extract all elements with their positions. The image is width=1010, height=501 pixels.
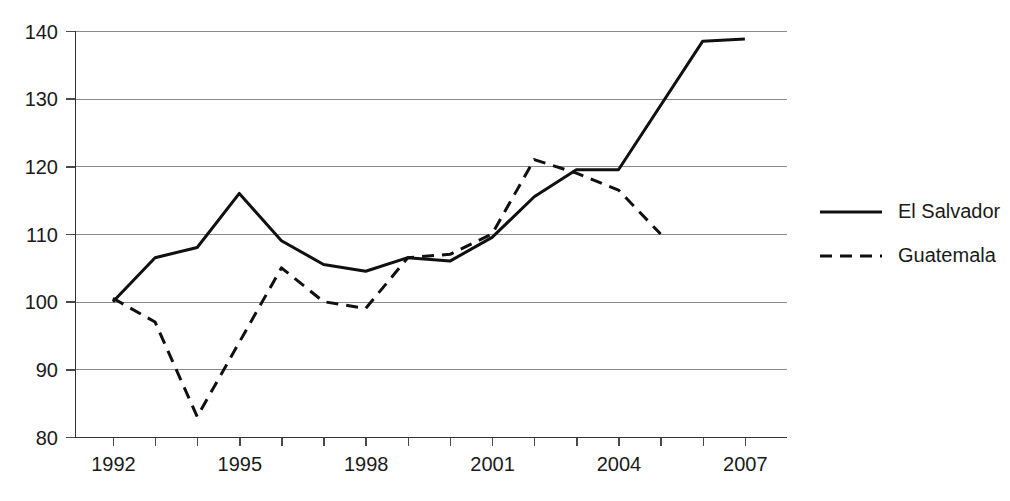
legend-label-guatemala: Guatemala <box>898 244 997 266</box>
series-line-el-salvador <box>113 39 745 302</box>
x-axis-tick-labels-group: 199219951998200120042007 <box>91 453 767 475</box>
y-tick-label-130: 130 <box>25 88 58 110</box>
y-tick-label-100: 100 <box>25 291 58 313</box>
y-axis-ticks-group <box>66 32 75 438</box>
x-axis-ticks-group <box>113 437 745 446</box>
legend-label-el-salvador: El Salvador <box>898 200 1001 222</box>
chart-canvas: 8090100110120130140 19921995199820012004… <box>0 0 1010 501</box>
y-axis-tick-labels-group: 8090100110120130140 <box>25 21 58 449</box>
x-tick-label-2007: 2007 <box>723 453 768 475</box>
y-tick-label-90: 90 <box>36 359 58 381</box>
data-series-group <box>113 39 745 417</box>
y-tick-label-140: 140 <box>25 21 58 43</box>
gridlines-group <box>75 32 787 438</box>
line-chart: 8090100110120130140 19921995199820012004… <box>0 0 1010 501</box>
x-tick-label-2004: 2004 <box>597 453 642 475</box>
x-tick-label-1998: 1998 <box>344 453 389 475</box>
series-line-guatemala <box>113 160 661 417</box>
y-tick-label-120: 120 <box>25 156 58 178</box>
y-tick-label-110: 110 <box>26 224 58 246</box>
legend: El SalvadorGuatemala <box>820 200 1001 266</box>
x-tick-label-1992: 1992 <box>91 453 136 475</box>
x-tick-label-1995: 1995 <box>218 453 263 475</box>
y-tick-label-80: 80 <box>36 427 58 449</box>
x-tick-label-2001: 2001 <box>470 453 515 475</box>
